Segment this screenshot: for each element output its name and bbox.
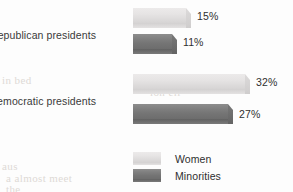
legend-swatch-women bbox=[133, 152, 161, 165]
value-label-minorities-democratic: 27% bbox=[239, 108, 260, 120]
bar-bevel-bottom bbox=[133, 89, 245, 94]
bar-women-republican bbox=[133, 8, 186, 28]
value-label-minorities-republican: 11% bbox=[183, 36, 204, 48]
swatch-bevel bbox=[133, 162, 161, 165]
category-label-democratic-presidents: Democratic presidents bbox=[0, 95, 96, 107]
bar-face bbox=[133, 104, 228, 119]
legend-item-minorities: Minorities bbox=[133, 167, 221, 184]
bar-women-democratic bbox=[133, 74, 245, 94]
bar-bevel-right bbox=[172, 34, 177, 54]
bar-minorities-democratic bbox=[133, 104, 228, 124]
legend-label-women: Women bbox=[175, 153, 212, 165]
legend-swatch-minorities bbox=[133, 169, 161, 182]
swatch-bevel bbox=[133, 179, 161, 182]
bar-bevel-right bbox=[186, 8, 191, 28]
legend-item-women: Women bbox=[133, 150, 221, 167]
bar-bevel-right bbox=[245, 74, 250, 94]
bar-bevel-right bbox=[228, 104, 233, 124]
swatch-face bbox=[133, 169, 161, 179]
bar-bevel-bottom bbox=[133, 119, 228, 124]
bar-bevel-bottom bbox=[133, 49, 172, 54]
bar-face bbox=[133, 74, 245, 89]
bar-bevel-bottom bbox=[133, 23, 186, 28]
value-label-women-republican: 15% bbox=[197, 10, 218, 22]
swatch-face bbox=[133, 152, 161, 162]
bar-chart: in bed in hadn ion ell aus a almost meet… bbox=[0, 0, 293, 192]
category-label-republican-presidents: Republican presidents bbox=[0, 29, 96, 41]
bar-face bbox=[133, 8, 186, 23]
legend-label-minorities: Minorities bbox=[175, 170, 221, 182]
bar-face bbox=[133, 34, 172, 49]
bar-minorities-republican bbox=[133, 34, 172, 54]
value-label-women-democratic: 32% bbox=[256, 76, 277, 88]
legend: Women Minorities bbox=[133, 150, 221, 184]
